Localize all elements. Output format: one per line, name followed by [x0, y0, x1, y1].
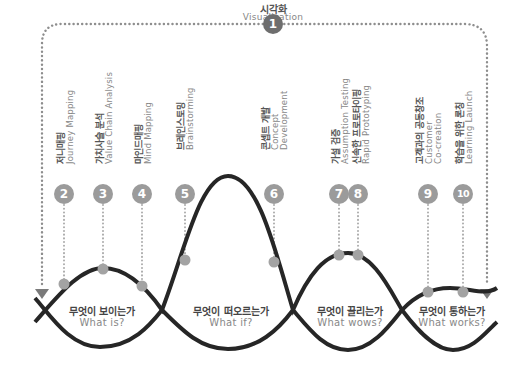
method-label-co-creation: 고객과의 공동창조 Customer Co-creation — [416, 97, 442, 164]
marker-5 — [180, 255, 191, 266]
marker-8 — [353, 250, 364, 261]
stage-en: What wows? — [300, 318, 400, 329]
marker-3 — [98, 264, 109, 275]
marker-10 — [458, 287, 469, 298]
design-thinking-diagram: 시각화 Visualization 1 저니매핑 Journey Mapping… — [0, 0, 523, 370]
method-en-line2: Development — [280, 91, 289, 150]
method-en: Rapid Prototyping — [362, 85, 371, 164]
method-label-mind-mapping: 마인드매핑 Mind Mapping — [135, 102, 153, 164]
stage-what-works: 무엇이 통하는가 What works? — [404, 307, 500, 328]
marker-7 — [334, 250, 345, 261]
step-number-6: 6 — [264, 184, 284, 204]
stage-ko: 무엇이 통하는가 — [404, 307, 500, 318]
method-label-assumption-testing: 가설 검증 Assumption Testing — [332, 78, 350, 164]
stage-what-if: 무엇이 떠오르는가 What if? — [176, 307, 286, 328]
stage-ko: 무엇이 끌리는가 — [300, 307, 400, 318]
step-number-2: 2 — [54, 184, 74, 204]
stage-what-wows: 무엇이 끌리는가 What wows? — [300, 307, 400, 328]
method-en: Brainstorming — [186, 87, 195, 150]
stage-ko: 무엇이 떠오르는가 — [176, 307, 286, 318]
method-label-brainstorming: 브레인스토밍 Brainstorming — [177, 87, 195, 150]
method-label-rapid-prototyping: 신속한 프로토타이핑 Rapid Prototyping — [353, 85, 371, 164]
step-number-5: 5 — [175, 184, 195, 204]
step-number-10: 10 — [453, 184, 473, 204]
marker-6 — [269, 257, 280, 268]
step-number-8: 8 — [348, 184, 368, 204]
step-number-4: 4 — [132, 184, 152, 204]
method-en: Learning Launch — [465, 91, 474, 164]
method-en: Assumption Testing — [341, 78, 350, 164]
marker-2 — [59, 279, 70, 290]
method-label-concept-development: 콘셉트 개발 Concept Development — [262, 91, 288, 150]
method-label-journey-mapping: 저니매핑 Journey Mapping — [57, 90, 75, 164]
step-number-7: 7 — [329, 184, 349, 204]
marker-4 — [137, 281, 148, 292]
method-en-line2: Co-creation — [434, 97, 443, 164]
marker-9 — [423, 287, 434, 298]
step-number-9: 9 — [418, 184, 438, 204]
method-label-value-chain: 가치사슬 분석 Value Chain Analysis — [96, 72, 114, 164]
stage-ko: 무엇이 보이는가 — [52, 307, 152, 318]
step-number-1: 1 — [263, 14, 283, 34]
method-en: Value Chain Analysis — [105, 72, 114, 164]
method-en: Mind Mapping — [144, 102, 153, 164]
stage-en: What works? — [404, 318, 500, 329]
method-label-learning-launch: 학습을 위한 론칭 Learning Launch — [456, 91, 474, 164]
stage-what-is: 무엇이 보이는가 What is? — [52, 307, 152, 328]
stage-en: What is? — [52, 318, 152, 329]
step-number-3: 3 — [93, 184, 113, 204]
method-en: Journey Mapping — [66, 90, 75, 164]
stage-en: What if? — [176, 318, 286, 329]
